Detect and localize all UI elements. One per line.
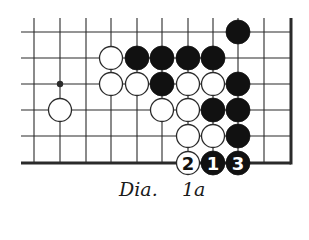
star-point-icon bbox=[57, 81, 63, 87]
black-stone-icon bbox=[226, 98, 250, 122]
black-stone bbox=[201, 98, 225, 122]
black-stone-icon bbox=[201, 46, 225, 70]
black-stone-icon bbox=[125, 46, 149, 70]
white-stone-icon bbox=[177, 99, 200, 122]
black-stone bbox=[176, 46, 200, 70]
white-stone-icon bbox=[177, 73, 200, 96]
white-stone bbox=[177, 73, 200, 96]
black-stone-move-1: 1 bbox=[201, 151, 225, 175]
black-stone bbox=[226, 20, 250, 44]
black-stone bbox=[201, 46, 225, 70]
black-stone-icon bbox=[176, 46, 200, 70]
black-stone-icon bbox=[226, 72, 250, 96]
stones-layer: 213 bbox=[49, 20, 251, 175]
black-stone-icon bbox=[226, 20, 250, 44]
black-stone-icon bbox=[150, 46, 174, 70]
black-stone-icon bbox=[201, 98, 225, 122]
black-stone bbox=[226, 124, 250, 148]
black-stone-move-3: 3 bbox=[226, 151, 250, 175]
move-number-label: 3 bbox=[232, 153, 245, 174]
white-stone-icon bbox=[177, 125, 200, 148]
white-stone-icon bbox=[49, 99, 72, 122]
caption-prefix: Dia. bbox=[119, 178, 158, 200]
white-stone bbox=[126, 73, 149, 96]
white-stone-icon bbox=[202, 73, 225, 96]
white-stone bbox=[202, 73, 225, 96]
white-stone-icon bbox=[126, 73, 149, 96]
white-stone-move-2: 2 bbox=[177, 152, 200, 175]
diagram-caption: Dia. 1a bbox=[0, 178, 309, 204]
white-stone bbox=[202, 125, 225, 148]
black-stone bbox=[150, 72, 174, 96]
move-number-label: 1 bbox=[207, 153, 220, 174]
move-number-label: 2 bbox=[182, 153, 195, 174]
white-stone bbox=[100, 47, 123, 70]
white-stone bbox=[177, 99, 200, 122]
white-stone bbox=[100, 73, 123, 96]
white-stone bbox=[49, 99, 72, 122]
caption-number: 1a bbox=[182, 178, 205, 200]
white-stone-icon bbox=[100, 73, 123, 96]
black-stone bbox=[226, 72, 250, 96]
white-stone bbox=[177, 125, 200, 148]
white-stone bbox=[151, 99, 174, 122]
black-stone bbox=[226, 98, 250, 122]
white-stone-icon bbox=[151, 99, 174, 122]
black-stone bbox=[125, 46, 149, 70]
black-stone-icon bbox=[150, 72, 174, 96]
star-points bbox=[57, 81, 63, 87]
black-stone-icon bbox=[226, 124, 250, 148]
black-stone bbox=[150, 46, 174, 70]
white-stone-icon bbox=[202, 125, 225, 148]
white-stone-icon bbox=[100, 47, 123, 70]
